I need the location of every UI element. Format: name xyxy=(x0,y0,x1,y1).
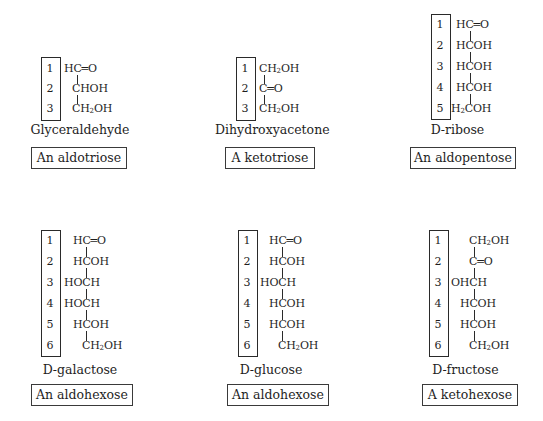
group-c2: HCOH xyxy=(269,255,305,268)
group-c3: CH2OH xyxy=(72,102,112,115)
compound-name: D-glucose xyxy=(236,362,306,377)
group-c1: CH2OH xyxy=(469,234,509,247)
group-c2: HCOH xyxy=(73,255,109,268)
group-c6: CH2OH xyxy=(278,339,318,352)
carbon-number-box xyxy=(429,230,449,357)
compound-name: Dihydroxyacetone xyxy=(215,122,320,137)
compound-name: D-ribose xyxy=(420,122,495,137)
carbon-number: 1 xyxy=(433,18,447,31)
carbon-number: 2 xyxy=(238,82,252,95)
carbon-number: 5 xyxy=(433,102,447,115)
group-c3: HOCH xyxy=(260,276,296,289)
carbon-number: 5 xyxy=(431,318,445,331)
group-c5: HCOH xyxy=(73,318,109,331)
carbon-number: 2 xyxy=(43,255,57,268)
carbon-number: 4 xyxy=(43,297,57,310)
group-c1: CH2OH xyxy=(259,62,299,75)
classification-box: An aldohexose xyxy=(31,384,133,406)
carbon-number: 1 xyxy=(240,234,254,247)
carbon-number: 1 xyxy=(431,234,445,247)
classification-box: An aldohexose xyxy=(227,384,329,406)
carbon-number: 1 xyxy=(43,234,57,247)
compound-name: D-galactose xyxy=(40,362,120,377)
classification-box: An aldotriose xyxy=(31,147,127,169)
carbon-number: 5 xyxy=(240,318,254,331)
group-c4: HCOH xyxy=(269,297,305,310)
carbon-number: 5 xyxy=(43,318,57,331)
carbon-number: 6 xyxy=(431,339,445,352)
carbon-number: 4 xyxy=(240,297,254,310)
group-c6: CH2OH xyxy=(469,339,509,352)
classification-box: A ketohexose xyxy=(422,384,518,406)
group-c1: HC═O xyxy=(73,234,106,247)
group-c2: HCOH xyxy=(456,39,492,52)
group-c2: CHOH xyxy=(72,82,108,95)
group-c4: HOCH xyxy=(64,297,100,310)
carbon-number: 3 xyxy=(240,276,254,289)
carbon-number: 1 xyxy=(43,62,57,75)
carbon-number: 3 xyxy=(43,102,57,115)
group-c3: HOCH xyxy=(64,276,100,289)
carbon-number: 3 xyxy=(431,276,445,289)
carbon-number: 6 xyxy=(43,339,57,352)
classification-box: An aldopentose xyxy=(410,147,516,169)
group-c2: C═O xyxy=(469,255,492,268)
group-c3: HCOH xyxy=(456,60,492,73)
carbon-number: 4 xyxy=(431,297,445,310)
group-c1: HC═O xyxy=(269,234,302,247)
carbon-number: 3 xyxy=(43,276,57,289)
carbon-number: 1 xyxy=(238,62,252,75)
carbon-number: 2 xyxy=(240,255,254,268)
compound-name: Glyceraldehyde xyxy=(30,122,130,137)
carbon-number-box xyxy=(41,230,61,357)
carbon-number: 2 xyxy=(43,82,57,95)
group-c5: HCOH xyxy=(460,318,496,331)
group-c6: CH2OH xyxy=(82,339,122,352)
carbon-number: 2 xyxy=(433,39,447,52)
group-c3: OHCH xyxy=(451,276,487,289)
carbon-number: 3 xyxy=(238,102,252,115)
compound-name: D-fructose xyxy=(428,362,503,377)
carbon-number: 6 xyxy=(240,339,254,352)
group-c5: H2COH xyxy=(451,102,491,115)
carbon-number-box xyxy=(238,230,258,357)
group-c3: CH2OH xyxy=(259,102,299,115)
carbon-number: 2 xyxy=(431,255,445,268)
group-c4: HCOH xyxy=(456,81,492,94)
group-c2: C═O xyxy=(259,82,282,95)
carbon-number: 4 xyxy=(433,81,447,94)
group-c1: HC═O xyxy=(64,62,97,75)
group-c1: HC═O xyxy=(456,18,489,31)
carbon-number: 3 xyxy=(433,60,447,73)
group-c5: HCOH xyxy=(269,318,305,331)
group-c4: HCOH xyxy=(460,297,496,310)
classification-box: A ketotriose xyxy=(225,147,315,169)
